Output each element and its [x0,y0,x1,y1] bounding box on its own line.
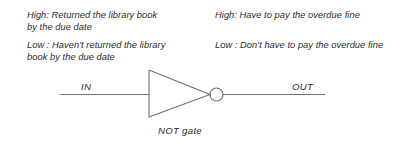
input-pin-label: IN [81,81,91,92]
not-gate-triangle [149,70,210,117]
notgate-analogy-figure: High: Returned the library book by the d… [0,0,411,145]
output-pin-label: OUT [292,81,313,92]
not-gate-label: NOT gate [158,125,202,136]
not-gate-schematic [0,0,411,145]
inversion-bubble-icon [210,88,223,101]
